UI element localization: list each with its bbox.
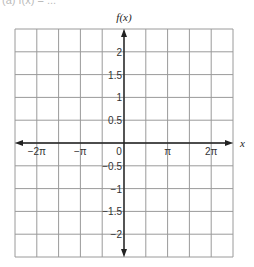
x-tick-label: −2π [28,146,46,157]
coordinate-grid-chart: f(x)x−2π−π0π2π21.510.5−0.5−1−1.5−2 [0,0,254,267]
y-tick-label: 1.5 [108,70,122,81]
y-axis-title: f(x) [116,11,132,24]
x-tick-label: π [164,146,171,157]
y-tick-label: −0.5 [102,161,122,172]
y-tick-label: 2 [116,47,122,58]
axes [15,29,233,257]
y-tick-label: −2 [111,229,123,240]
x-axis-right-arrow-icon [225,140,233,146]
x-axis-left-arrow-icon [15,140,23,146]
tick-labels: f(x)x−2π−π0π2π21.510.5−0.5−1−1.5−2 [28,11,245,240]
y-tick-label: −1.5 [102,206,122,217]
y-tick-label: 1 [116,92,122,103]
y-tick-label: −1 [111,184,123,195]
y-axis-up-arrow-icon [121,29,127,37]
x-tick-label: −π [74,146,87,157]
x-tick-label: 2π [205,146,218,157]
x-tick-label: 0 [116,146,122,157]
y-tick-label: 0.5 [108,115,122,126]
x-axis-title: x [239,137,245,149]
y-axis-down-arrow-icon [121,249,127,257]
